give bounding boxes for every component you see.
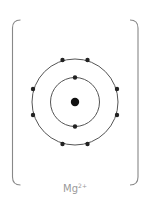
electron [60, 142, 64, 146]
ion-symbol: Mg [63, 183, 78, 194]
electron [73, 75, 77, 79]
electron [31, 113, 35, 117]
left-bracket [13, 20, 21, 185]
electron [31, 87, 35, 91]
electron [115, 113, 119, 117]
electron [60, 58, 64, 62]
ion-diagram [0, 0, 142, 201]
ion-charge: 2+ [78, 182, 87, 189]
nucleus [71, 98, 79, 106]
electron [115, 87, 119, 91]
right-bracket [130, 20, 138, 185]
electron [85, 58, 89, 62]
electron [85, 142, 89, 146]
electron [73, 124, 77, 128]
ion-label: Mg2+ [0, 180, 142, 195]
